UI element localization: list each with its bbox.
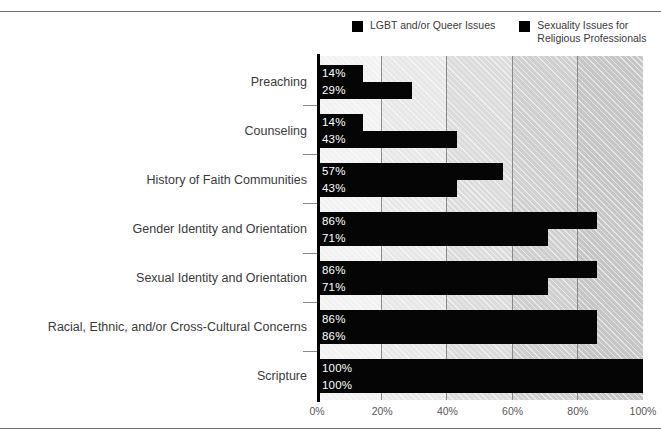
- bar: 86%: [317, 327, 597, 344]
- bar: 43%: [317, 131, 457, 148]
- y-axis-category-labels: PreachingCounselingHistory of Faith Comm…: [0, 0, 307, 441]
- y-axis-category-label: History of Faith Communities: [7, 173, 307, 187]
- bar-value-label: 86%: [322, 215, 346, 227]
- bar-value-label: 14%: [322, 116, 346, 128]
- bar-value-label: 43%: [322, 133, 346, 145]
- legend-item-lgbt-queer-issues: LGBT and/or Queer Issues: [352, 19, 495, 32]
- y-axis-tick-mark: [303, 351, 317, 352]
- bar: 43%: [317, 180, 457, 197]
- plot-area: 14%29%14%43%57%43%86%71%86%71%86%86%100%…: [317, 56, 643, 400]
- bar: 100%: [317, 376, 643, 393]
- bar: 71%: [317, 278, 548, 295]
- bar: 86%: [317, 261, 597, 278]
- y-axis-tick-mark: [303, 105, 317, 106]
- bar: 86%: [317, 212, 597, 229]
- y-axis-tick-mark: [303, 203, 317, 204]
- y-axis-line: [317, 54, 320, 402]
- bar-value-label: 100%: [322, 362, 352, 374]
- bar: 100%: [317, 359, 643, 376]
- y-axis-category-label: Sexual Identity and Orientation: [7, 271, 307, 285]
- y-axis-tick-mark: [303, 154, 317, 155]
- y-axis-category-label: Racial, Ethnic, and/or Cross-Cultural Co…: [7, 320, 307, 334]
- bar-value-label: 43%: [322, 182, 346, 194]
- chart-figure: LGBT and/or Queer Issues Sexuality Issue…: [0, 0, 661, 441]
- bar-value-label: 71%: [322, 232, 346, 244]
- chart-legend: LGBT and/or Queer Issues Sexuality Issue…: [352, 19, 652, 51]
- bar-value-label: 71%: [322, 281, 346, 293]
- bar-value-label: 29%: [322, 84, 346, 96]
- bar: 57%: [317, 163, 503, 180]
- legend-item-sexuality-issues-religious-professionals: Sexuality Issues for Religious Professio…: [519, 19, 646, 44]
- bar: 29%: [317, 82, 412, 99]
- x-axis-tick-label: 80%: [567, 405, 588, 418]
- legend-item-label: Sexuality Issues for Religious Professio…: [537, 19, 646, 44]
- bar-value-label: 57%: [322, 165, 346, 177]
- y-axis-tick-mark: [303, 253, 317, 254]
- bar-value-label: 86%: [322, 313, 346, 325]
- x-axis-tick-labels: 0%20%40%60%80%100%: [0, 405, 661, 421]
- legend-swatch-icon: [519, 21, 530, 32]
- x-axis-tick-label: 20%: [372, 405, 393, 418]
- bar-value-label: 86%: [322, 330, 346, 342]
- y-axis-category-label: Preaching: [7, 75, 307, 89]
- legend-item-label: LGBT and/or Queer Issues: [370, 19, 495, 32]
- bar: 86%: [317, 310, 597, 327]
- x-axis-tick-label: 100%: [630, 405, 657, 418]
- x-axis-tick-label: 60%: [502, 405, 523, 418]
- x-axis-tick-label: 0%: [309, 405, 324, 418]
- bar: 14%: [317, 114, 363, 131]
- y-axis-tick-mark: [303, 302, 317, 303]
- bar: 71%: [317, 229, 548, 246]
- x-axis-tick-label: 40%: [437, 405, 458, 418]
- y-axis-category-label: Scripture: [7, 369, 307, 383]
- bar-value-label: 100%: [322, 379, 352, 391]
- y-axis-category-label: Gender Identity and Orientation: [7, 222, 307, 236]
- legend-swatch-icon: [352, 21, 363, 32]
- bar: 14%: [317, 65, 363, 82]
- bar-value-label: 14%: [322, 67, 346, 79]
- bar-value-label: 86%: [322, 264, 346, 276]
- y-axis-category-label: Counseling: [7, 124, 307, 138]
